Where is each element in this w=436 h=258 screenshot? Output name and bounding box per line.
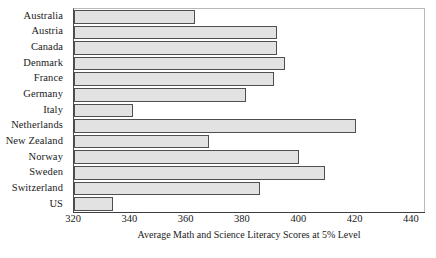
bar-row bbox=[74, 118, 424, 134]
category-label: Italy bbox=[0, 102, 68, 118]
bar-row bbox=[74, 25, 424, 41]
bar-rows bbox=[74, 9, 424, 212]
x-tick-label: 440 bbox=[403, 214, 419, 225]
bar bbox=[74, 10, 195, 24]
bar bbox=[74, 72, 274, 86]
plot-area bbox=[73, 8, 425, 212]
bar-row bbox=[74, 71, 424, 87]
bar bbox=[74, 150, 299, 164]
bar bbox=[74, 104, 133, 118]
x-axis-tick-labels: 320340360380400420440 bbox=[0, 214, 436, 228]
x-tick-label: 400 bbox=[290, 214, 306, 225]
category-label: Australia bbox=[0, 8, 68, 24]
bar-row bbox=[74, 181, 424, 197]
category-label: US bbox=[0, 196, 68, 212]
bar-row bbox=[74, 165, 424, 181]
bar bbox=[74, 182, 260, 196]
x-tick-label: 380 bbox=[234, 214, 250, 225]
category-label: Austria bbox=[0, 24, 68, 40]
bar bbox=[74, 166, 325, 180]
category-label: Germany bbox=[0, 86, 68, 102]
category-label: Switzerland bbox=[0, 181, 68, 197]
x-axis-title: Average Math and Science Literacy Scores… bbox=[73, 230, 425, 240]
bar bbox=[74, 197, 113, 211]
category-label: Denmark bbox=[0, 55, 68, 71]
bar-row bbox=[74, 9, 424, 25]
bar-row bbox=[74, 149, 424, 165]
bar-row bbox=[74, 87, 424, 103]
bar-row bbox=[74, 56, 424, 72]
category-label: New Zealand bbox=[0, 134, 68, 150]
bar-row bbox=[74, 196, 424, 212]
bar bbox=[74, 57, 285, 71]
bar bbox=[74, 119, 356, 133]
category-axis-labels: AustraliaAustriaCanadaDenmarkFranceGerma… bbox=[0, 8, 68, 212]
bar bbox=[74, 135, 209, 149]
x-tick-label: 360 bbox=[178, 214, 194, 225]
category-label: Norway bbox=[0, 149, 68, 165]
bar-row bbox=[74, 134, 424, 150]
category-label: France bbox=[0, 71, 68, 87]
category-label: Canada bbox=[0, 39, 68, 55]
category-label: Sweden bbox=[0, 165, 68, 181]
horizontal-bar-chart: AustraliaAustriaCanadaDenmarkFranceGerma… bbox=[0, 0, 436, 258]
x-tick-label: 420 bbox=[347, 214, 363, 225]
category-label: Netherlands bbox=[0, 118, 68, 134]
bar-row bbox=[74, 40, 424, 56]
x-tick-label: 320 bbox=[65, 214, 81, 225]
bar bbox=[74, 26, 277, 40]
bar-row bbox=[74, 103, 424, 119]
bar bbox=[74, 88, 246, 102]
x-tick-label: 340 bbox=[121, 214, 137, 225]
bar bbox=[74, 41, 277, 55]
